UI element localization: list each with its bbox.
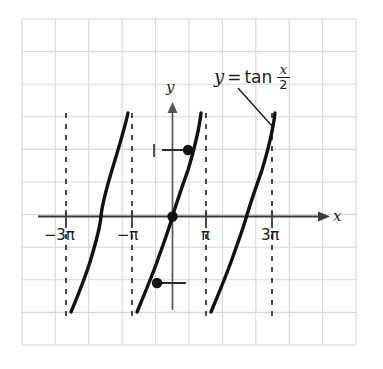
x-axis-label: x [333,209,341,224]
x-tick-label-3pi: 3π [261,228,279,243]
y-axis-label: y [166,80,174,95]
x-tick-label-pi: π [201,228,210,243]
curve-branch-right [211,113,275,312]
point-pi-half-one [183,145,193,155]
equation-fraction-numerator: x [278,63,289,77]
equation-lhs: y [214,68,224,86]
tangent-graph-figure: −3π −π π 3π x y y = tan x 2 [0,0,383,369]
curve-equation-label: y = tan x 2 [214,63,290,91]
equation-function-name: tan [244,69,272,86]
grid-lines [22,19,356,345]
graph-canvas [0,0,383,369]
x-tick-label-neg-3pi: −3π [44,228,75,243]
x-tick-label-neg-pi: −π [117,228,138,243]
point-neg-pi-half-neg-one [152,278,162,288]
equation-equals-sign: = [227,69,241,86]
x-axis-arrowhead [318,212,330,222]
equation-fraction-denominator: 2 [277,78,289,92]
y-axis-arrowhead [168,102,178,113]
point-origin [167,211,177,221]
equation-leader-line [238,88,272,126]
equation-fraction: x 2 [277,63,289,91]
x-axis [38,212,330,222]
curve-branch-left [71,113,128,312]
